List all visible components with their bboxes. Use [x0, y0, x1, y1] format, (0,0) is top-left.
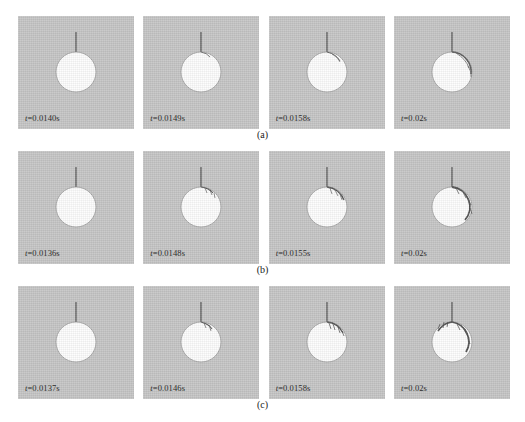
bubble-shape — [307, 187, 347, 227]
time-label: t=0.0149s — [150, 113, 185, 123]
bubble-shape — [307, 52, 347, 92]
bubble-shape — [56, 187, 96, 227]
panel-strip-b: t=0.0136s t=0.0148s t=0.0155s — [18, 151, 510, 264]
simulation-panel: t=0.0155s — [269, 151, 385, 264]
bubble-shape — [307, 322, 347, 362]
time-label: t=0.0148s — [150, 248, 185, 258]
figure-row-b: t=0.0136s t=0.0148s t=0.0155s — [0, 150, 525, 285]
figure-image-sequence-grid: t=0.0140s t=0.0149s t=0.0158s — [0, 0, 525, 422]
time-label: t=0.02s — [401, 383, 427, 393]
row-caption: (c) — [0, 399, 525, 410]
simulation-panel: t=0.0148s — [143, 151, 259, 264]
time-label: t=0.0140s — [25, 113, 60, 123]
bubble-shape — [56, 322, 96, 362]
bubble-shape — [181, 322, 221, 362]
simulation-panel: t=0.02s — [394, 16, 510, 129]
panel-strip-a: t=0.0140s t=0.0149s t=0.0158s — [18, 16, 510, 129]
simulation-panel: t=0.0136s — [18, 151, 134, 264]
time-label: t=0.0155s — [276, 248, 311, 258]
time-label: t=0.0158s — [276, 383, 311, 393]
row-caption: (b) — [0, 264, 525, 275]
simulation-panel: t=0.02s — [394, 286, 510, 399]
figure-row-c: t=0.0137s t=0.0146s t=0.0158s — [0, 285, 525, 420]
time-label: t=0.02s — [401, 113, 427, 123]
panel-strip-c: t=0.0137s t=0.0146s t=0.0158s — [18, 286, 510, 399]
row-caption: (a) — [0, 129, 525, 140]
bubble-shape — [56, 52, 96, 92]
simulation-panel: t=0.0146s — [143, 286, 259, 399]
time-label: t=0.02s — [401, 248, 427, 258]
time-label: t=0.0137s — [25, 383, 60, 393]
bubble-shape — [181, 52, 221, 92]
figure-row-a: t=0.0140s t=0.0149s t=0.0158s — [0, 15, 525, 150]
bubble-shape — [181, 187, 221, 227]
simulation-panel: t=0.0140s — [18, 16, 134, 129]
time-label: t=0.0158s — [276, 113, 311, 123]
time-label: t=0.0146s — [150, 383, 185, 393]
simulation-panel: t=0.0158s — [269, 286, 385, 399]
simulation-panel: t=0.0149s — [143, 16, 259, 129]
simulation-panel: t=0.0158s — [269, 16, 385, 129]
bubble-shape — [432, 187, 472, 227]
simulation-panel: t=0.02s — [394, 151, 510, 264]
time-label: t=0.0136s — [25, 248, 60, 258]
simulation-panel: t=0.0137s — [18, 286, 134, 399]
